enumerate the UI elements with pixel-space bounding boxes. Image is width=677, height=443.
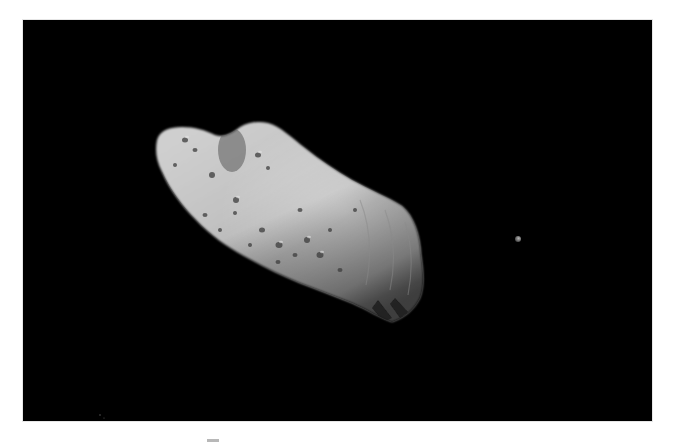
asteroid-scene <box>23 20 652 421</box>
space-photograph <box>23 20 652 421</box>
background-specks <box>99 414 104 418</box>
asteroid-ida <box>150 115 430 330</box>
moon-dactyl <box>515 236 521 242</box>
scan-artifact <box>207 439 219 442</box>
page <box>0 0 677 443</box>
